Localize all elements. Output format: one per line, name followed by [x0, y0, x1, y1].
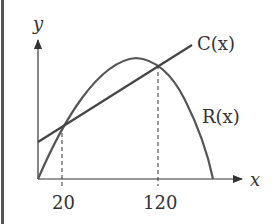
chart: y x C(x) R(x) 20 120	[0, 0, 275, 224]
tick-20: 20	[52, 192, 75, 213]
r-label: R(x)	[202, 106, 240, 127]
r-curve	[38, 58, 213, 179]
x-axis-label: x	[250, 169, 260, 190]
c-label: C(x)	[197, 33, 235, 54]
y-axis-label: y	[32, 13, 44, 34]
c-line	[38, 45, 192, 142]
tick-120: 120	[143, 192, 177, 213]
